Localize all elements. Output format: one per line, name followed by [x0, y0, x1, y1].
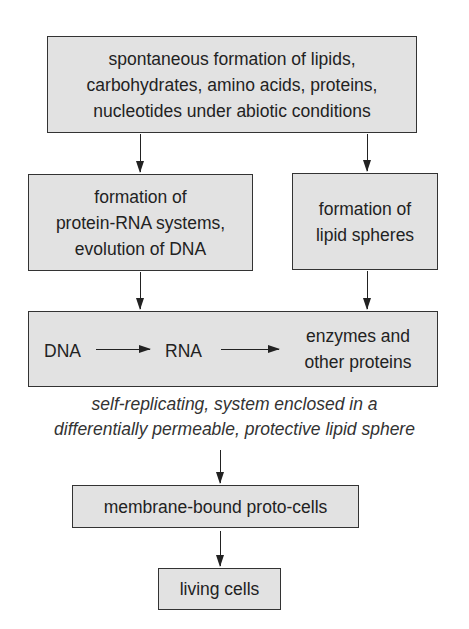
proteins-label: enzymes and other proteins — [287, 323, 429, 375]
node-label: living cells — [180, 576, 260, 602]
arrow-down-icon — [367, 271, 368, 309]
node-text-line: other proteins — [304, 349, 411, 375]
node-text-line: nucleotides under abiotic conditions — [93, 98, 370, 124]
caption-line: self-replicating, system enclosed in a — [0, 392, 469, 417]
arrow-down-icon — [220, 531, 221, 566]
rna-label: RNA — [165, 338, 202, 364]
node-living-cells: living cells — [158, 568, 281, 610]
arrow-down-icon — [140, 272, 141, 309]
caption-line: differentially permeable, protective lip… — [0, 417, 469, 442]
arrow-down-icon — [220, 450, 221, 483]
node-text-line: carbohydrates, amino acids, proteins, — [87, 72, 378, 98]
node-text-line: enzymes and — [306, 323, 410, 349]
node-text-line: protein-RNA systems, — [56, 210, 225, 236]
arrow-right-icon — [221, 349, 279, 350]
arrow-down-icon — [367, 134, 368, 171]
node-lipid-spheres: formation of lipid spheres — [292, 173, 438, 270]
node-protein-rna: formation of protein-RNA systems, evolut… — [28, 174, 253, 271]
node-text-line: spontaneous formation of lipids, — [108, 46, 355, 72]
node-abiotic-synthesis: spontaneous formation of lipids, carbohy… — [47, 36, 417, 133]
node-proto-cells: membrane-bound proto-cells — [72, 485, 359, 528]
arrow-right-icon — [96, 349, 150, 350]
node-text-line: evolution of DNA — [75, 236, 206, 262]
node-central-dogma: DNA RNA enzymes and other proteins — [28, 311, 438, 387]
dna-label: DNA — [44, 338, 81, 364]
node-text-line: formation of — [94, 184, 186, 210]
node-label: membrane-bound proto-cells — [104, 494, 328, 520]
arrow-down-icon — [140, 134, 141, 172]
node-text-line: formation of — [319, 196, 411, 222]
node-text-line: lipid spheres — [316, 222, 414, 248]
caption: self-replicating, system enclosed in a d… — [0, 392, 469, 442]
